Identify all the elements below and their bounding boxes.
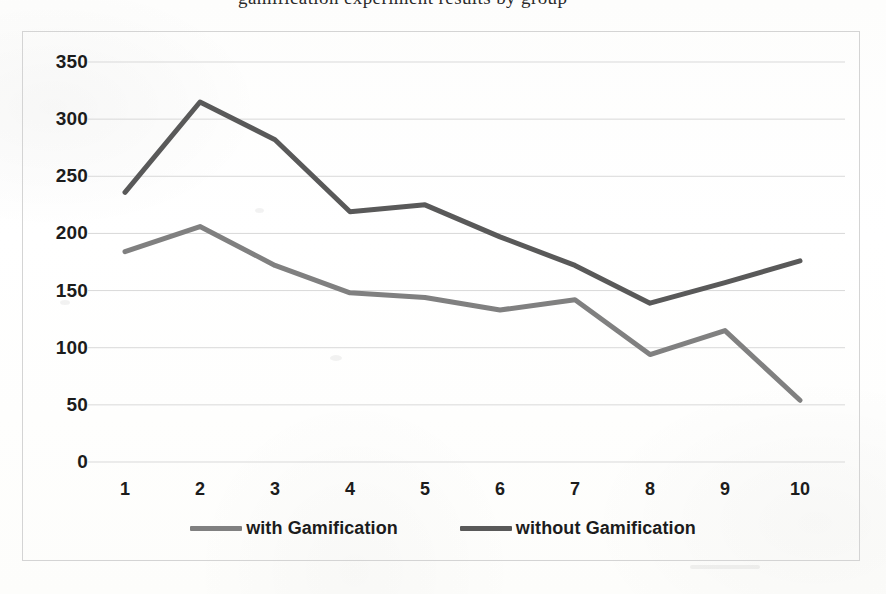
y-axis-tick-label: 350 xyxy=(30,51,88,73)
y-axis-tick-label: 150 xyxy=(30,280,88,302)
x-axis-tick-label: 7 xyxy=(545,479,605,500)
legend-line-swatch xyxy=(190,526,242,531)
legend-entry: with Gamification xyxy=(190,518,398,539)
scan-speck xyxy=(690,565,760,569)
x-axis-tick-label: 1 xyxy=(95,479,155,500)
x-axis-tick-label: 3 xyxy=(245,479,305,500)
x-axis-tick-label: 5 xyxy=(395,479,455,500)
x-axis-tick-label: 4 xyxy=(320,479,380,500)
x-axis-tick-label: 10 xyxy=(770,479,830,500)
x-axis-tick-label: 8 xyxy=(620,479,680,500)
y-axis-tick-label: 300 xyxy=(30,108,88,130)
legend-label: with Gamification xyxy=(246,518,398,539)
cropped-body-text-line: gamification experiment results by group xyxy=(238,0,567,9)
chart-legend: with Gamificationwithout Gamification xyxy=(0,518,886,539)
cropped-body-text: gamification experiment results by group xyxy=(0,0,886,18)
x-axis-tick-label: 9 xyxy=(695,479,755,500)
x-axis-tick-label: 6 xyxy=(470,479,530,500)
legend-line-swatch xyxy=(460,526,512,531)
y-axis-tick-label: 50 xyxy=(30,394,88,416)
y-axis-tick-label: 0 xyxy=(30,451,88,473)
y-axis-tick-label: 250 xyxy=(30,165,88,187)
legend-entry: without Gamification xyxy=(460,518,696,539)
y-axis-tick-label: 100 xyxy=(30,337,88,359)
legend-label: without Gamification xyxy=(516,518,696,539)
x-axis: 12345678910 xyxy=(0,479,886,505)
y-axis-tick-label: 200 xyxy=(30,222,88,244)
x-axis-tick-label: 2 xyxy=(170,479,230,500)
